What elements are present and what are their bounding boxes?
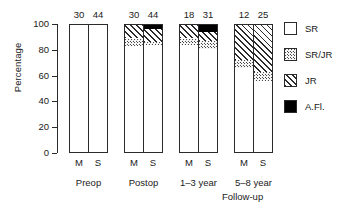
bar-group: [234, 24, 274, 153]
legend-label: SR: [305, 23, 318, 34]
bar-group: [69, 24, 109, 153]
legend-label: SR/JR: [305, 49, 332, 60]
bar-segment-jr: [199, 32, 217, 41]
y-axis-tick-label: 60: [13, 71, 49, 81]
stacked-bar[interactable]: [69, 24, 89, 153]
sample-size-label: 44: [142, 9, 164, 20]
bar-segment-sr: [125, 46, 143, 152]
legend-item-srjr[interactable]: SR/JR: [284, 47, 332, 61]
bar-label-s: S: [197, 157, 219, 168]
legend-item-afl[interactable]: A.Fl.: [284, 99, 325, 113]
legend-swatch-afl-icon: [284, 100, 297, 113]
bar-segment-srjr: [235, 60, 253, 68]
legend-swatch-jr-icon: [284, 74, 297, 87]
sample-size-label: 31: [197, 9, 219, 20]
bar-segment-jr: [235, 24, 253, 60]
legend-label: A.Fl.: [305, 101, 325, 112]
bar-segment-srjr: [254, 72, 272, 81]
bar-segment-sr: [70, 24, 88, 152]
stacked-bar[interactable]: [198, 24, 218, 153]
bar-segment-srjr: [199, 41, 217, 49]
bar-segment-afl: [199, 24, 217, 32]
sample-size-label: 25: [252, 9, 274, 20]
bar-segment-jr: [254, 24, 272, 72]
stacked-bar[interactable]: [88, 24, 108, 153]
group-label: Preop: [59, 177, 119, 188]
bar-segment-sr: [235, 68, 253, 152]
bar-segment-sr: [180, 45, 198, 152]
bar-segment-srjr: [180, 39, 198, 45]
stacked-bar-chart: Percentage 100806040200 3044304418311225…: [0, 0, 338, 205]
group-label: 5–8 year: [224, 177, 284, 188]
x-axis-title: Follow-up: [222, 191, 263, 202]
stacked-bar[interactable]: [179, 24, 199, 153]
bar-segment-sr: [89, 24, 107, 152]
bar-group: [124, 24, 164, 153]
legend-label: JR: [305, 75, 317, 86]
bar-segment-srjr: [125, 39, 143, 47]
y-axis-tick-label: 40: [13, 96, 49, 106]
stacked-bar[interactable]: [253, 24, 273, 153]
legend-item-jr[interactable]: JR: [284, 73, 317, 87]
bar-group: [179, 24, 219, 153]
stacked-bar[interactable]: [143, 24, 163, 153]
y-axis-tick-label: 100: [13, 19, 49, 29]
bar-segment-sr: [144, 45, 162, 152]
plot-area: [57, 24, 279, 153]
bar-segment-srjr: [144, 42, 162, 45]
sample-size-label: 44: [87, 9, 109, 20]
bar-label-s: S: [142, 157, 164, 168]
bar-label-s: S: [87, 157, 109, 168]
bar-label-s: S: [252, 157, 274, 168]
y-axis-tick-label: 0: [13, 148, 49, 158]
group-label: Postop: [114, 177, 174, 188]
legend-swatch-sr-icon: [284, 22, 297, 35]
bar-segment-jr: [125, 24, 143, 38]
bar-segment-afl: [144, 24, 162, 29]
y-axis-tick-label: 20: [13, 122, 49, 132]
bar-segment-jr: [180, 24, 198, 38]
legend-item-sr[interactable]: SR: [284, 21, 318, 35]
bar-segment-sr: [254, 81, 272, 152]
y-axis-tick: [52, 153, 57, 154]
bar-segment-jr: [144, 29, 162, 42]
y-axis-tick-label: 80: [13, 45, 49, 55]
stacked-bar[interactable]: [234, 24, 254, 153]
bar-segment-sr: [199, 49, 217, 152]
legend-swatch-srjr-icon: [284, 48, 297, 61]
stacked-bar[interactable]: [124, 24, 144, 153]
group-label: 1–3 year: [169, 177, 229, 188]
